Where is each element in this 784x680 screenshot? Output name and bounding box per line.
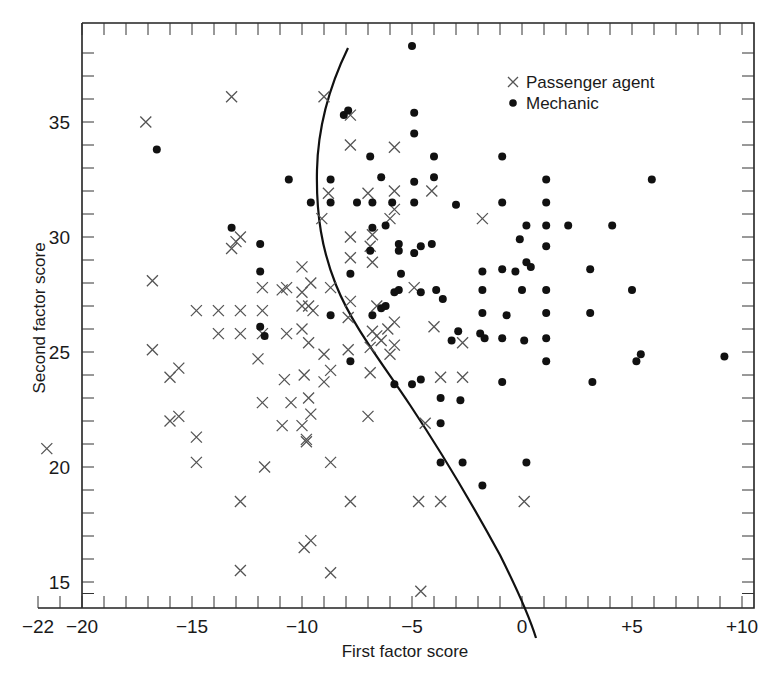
mechanic-point: [327, 199, 335, 207]
mechanic-point: [542, 309, 550, 317]
mechanic-point: [439, 295, 447, 303]
mechanic-point: [285, 176, 293, 184]
mechanic-point: [388, 199, 396, 207]
passenger-point: [41, 443, 52, 454]
mechanic-point: [428, 240, 436, 248]
mechanic-point: [395, 240, 403, 248]
mechanic-point: [608, 222, 616, 230]
passenger-point: [235, 565, 246, 576]
mechanic-points: [153, 42, 729, 489]
mechanic-point: [368, 311, 376, 319]
y-tick-label: 30: [49, 227, 70, 248]
passenger-point: [253, 353, 264, 364]
mechanic-point: [410, 199, 418, 207]
mechanic-point: [632, 357, 640, 365]
mechanic-point: [366, 247, 374, 255]
passenger-point: [277, 284, 288, 295]
passenger-point: [363, 411, 374, 422]
passenger-point: [297, 420, 308, 431]
passenger-point: [319, 349, 330, 360]
mechanic-point: [410, 178, 418, 186]
scatter-chart: −22−20−15−10−50+5+10 1520253035 Passenge…: [0, 0, 784, 680]
passenger-point: [213, 328, 224, 339]
x-tick-label: −22: [22, 616, 54, 637]
mechanic-point: [522, 222, 530, 230]
mechanic-point: [256, 240, 264, 248]
passenger-point: [259, 462, 270, 473]
mechanic-point: [511, 268, 519, 276]
mechanic-point: [478, 309, 486, 317]
mechanic-point: [417, 242, 425, 250]
mechanic-point: [459, 458, 467, 466]
mechanic-point: [542, 176, 550, 184]
mechanic-point: [153, 146, 161, 154]
passenger-point: [325, 457, 336, 468]
mechanic-point: [542, 334, 550, 342]
mechanic-point: [395, 247, 403, 255]
mechanic-point: [397, 270, 405, 278]
mechanic-point: [256, 323, 264, 331]
mechanic-point: [456, 396, 464, 404]
mechanic-point: [481, 334, 489, 342]
mechanic-point: [382, 222, 390, 230]
mechanic-point: [408, 42, 416, 50]
mechanic-point: [498, 378, 506, 386]
passenger-point: [325, 365, 336, 376]
mechanic-point: [588, 378, 596, 386]
passenger-point: [435, 496, 446, 507]
passenger-point: [257, 282, 268, 293]
passenger-point: [147, 275, 158, 286]
mechanic-point: [542, 286, 550, 294]
y-tick-label: 15: [49, 572, 70, 593]
mechanic-point: [430, 173, 438, 181]
passenger-point: [213, 305, 224, 316]
passenger-point: [235, 496, 246, 507]
passenger-point: [363, 188, 374, 199]
mechanic-point: [390, 380, 398, 388]
mechanic-point: [368, 224, 376, 232]
passenger-point: [226, 91, 237, 102]
passenger-point: [305, 409, 316, 420]
passenger-point: [389, 142, 400, 153]
passenger-point: [389, 340, 400, 351]
mechanic-point: [498, 153, 506, 161]
passenger-point: [286, 397, 297, 408]
passenger-point: [365, 342, 376, 353]
mechanic-point: [437, 419, 445, 427]
passenger-point: [297, 301, 308, 312]
passenger-point: [323, 188, 334, 199]
x-axis-title: First factor score: [342, 642, 469, 661]
mechanic-point: [637, 350, 645, 358]
passenger-point: [365, 367, 376, 378]
passenger-point: [305, 278, 316, 289]
mechanic-point: [452, 201, 460, 209]
mechanic-point: [542, 199, 550, 207]
passenger-point: [345, 296, 356, 307]
mechanic-point: [344, 107, 352, 115]
mechanic-point: [327, 176, 335, 184]
passenger-point: [277, 420, 288, 431]
passenger-agent-points: [41, 91, 529, 597]
passenger-point: [367, 257, 378, 268]
y-axis-title: Second factor score: [30, 242, 49, 393]
legend-label-mechanic: Mechanic: [526, 94, 599, 113]
passenger-point: [477, 213, 488, 224]
mechanic-point: [648, 176, 656, 184]
passenger-point: [303, 393, 314, 404]
passenger-point: [191, 432, 202, 443]
passenger-point: [281, 328, 292, 339]
passenger-point: [389, 186, 400, 197]
mechanic-point: [586, 265, 594, 273]
mechanic-point: [430, 153, 438, 161]
mechanic-point: [498, 199, 506, 207]
dot-marker-icon: [509, 99, 517, 107]
passenger-point: [457, 337, 468, 348]
passenger-point: [345, 252, 356, 263]
passenger-point: [173, 363, 184, 374]
mechanic-point: [498, 265, 506, 273]
discriminant-curve: [317, 48, 536, 638]
passenger-point: [319, 376, 330, 387]
mechanic-point: [503, 311, 511, 319]
mechanic-point: [454, 327, 462, 335]
mechanic-point: [327, 311, 335, 319]
